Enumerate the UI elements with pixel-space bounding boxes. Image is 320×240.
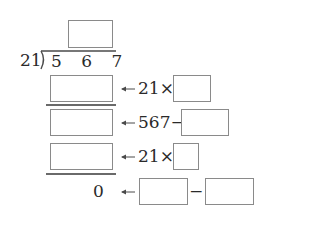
final-remainder: 0 bbox=[93, 183, 104, 200]
multiplier-1-box[interactable] bbox=[173, 75, 211, 102]
product-1-box[interactable] bbox=[50, 75, 113, 102]
subtrahend-2-box[interactable] bbox=[205, 178, 254, 205]
subtrahend-1-box[interactable] bbox=[181, 109, 229, 136]
arrow-left-icon bbox=[120, 152, 136, 162]
arrow-left-icon bbox=[120, 187, 136, 197]
step-3-label: 21× bbox=[138, 148, 174, 165]
remainder-1-box[interactable] bbox=[50, 109, 113, 136]
subtraction-line-2 bbox=[46, 173, 116, 175]
subtraction-line-1 bbox=[46, 104, 116, 106]
quotient-input-box[interactable] bbox=[68, 20, 113, 48]
arrow-left-icon bbox=[120, 118, 136, 128]
minuend-box[interactable] bbox=[139, 178, 188, 205]
step-2-label: 567− bbox=[138, 114, 185, 131]
minus-operator: − bbox=[189, 183, 203, 200]
dividend: 5 6 7 bbox=[51, 53, 129, 70]
arrow-left-icon bbox=[120, 84, 136, 94]
step-1-label: 21× bbox=[138, 80, 174, 97]
multiplier-2-box[interactable] bbox=[173, 143, 199, 170]
product-2-box[interactable] bbox=[50, 143, 113, 170]
